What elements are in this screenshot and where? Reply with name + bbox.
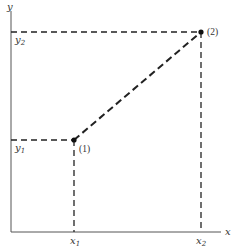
x-axis-label: x [225, 226, 231, 237]
x2-tick-label: x2 [196, 235, 207, 248]
y1-tick-label: y1 [14, 142, 25, 155]
point-2 [198, 29, 203, 34]
coordinate-diagram: y x (1) (2) y2 y1 x1 x2 [0, 0, 234, 249]
point-1-label: (1) [79, 144, 90, 155]
point-2-label: (2) [207, 27, 218, 38]
x1-tick-label: x1 [70, 235, 80, 248]
y2-tick-label: y2 [14, 34, 26, 47]
connecting-path [74, 32, 201, 140]
point-1 [71, 137, 76, 142]
y-axis-label: y [6, 1, 13, 12]
